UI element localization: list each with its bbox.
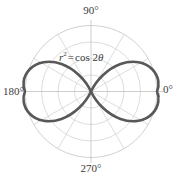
equation-annotation: r2=cos 2θ <box>59 52 103 63</box>
equation-theta-variable: θ <box>98 51 103 63</box>
polar-plot-canvas <box>0 0 182 183</box>
axis-label-0-degrees: 0° <box>163 84 173 95</box>
polar-plot-figure: 90° 180° 0° 270° 1 r2=cos 2θ <box>0 0 182 183</box>
equation-equals-sign: = <box>67 51 75 63</box>
equation-cos-function: cos <box>75 51 90 63</box>
axis-label-180-degrees: 180° <box>3 86 24 97</box>
radius-tick-label-1: 1 <box>157 92 161 99</box>
axis-label-90-degrees: 90° <box>0 5 182 16</box>
axis-label-270-degrees: 270° <box>0 163 182 174</box>
